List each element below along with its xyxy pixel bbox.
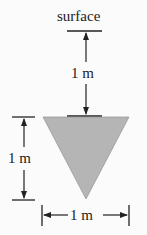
depth-label: 1 m — [71, 66, 94, 81]
height-label: 1 m — [8, 151, 31, 166]
diagram: surface 1 m 1 m 1 m — [0, 0, 147, 235]
diagram-graphics — [0, 0, 147, 235]
surface-label: surface — [57, 9, 100, 24]
width-label: 1 m — [70, 208, 93, 223]
triangle-plate — [43, 117, 129, 199]
